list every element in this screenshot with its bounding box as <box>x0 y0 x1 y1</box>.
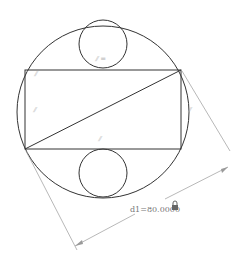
dimension-line-right-segment[interactable] <box>165 167 228 199</box>
dimension-arrow-left <box>75 240 83 246</box>
equal-constraint-icon[interactable]: ⫽ = <box>94 55 106 63</box>
parallel-constraint-icon[interactable]: ⫽ <box>97 135 103 143</box>
outer-circle[interactable] <box>17 26 189 198</box>
dimension-line-left-segment[interactable] <box>75 214 135 246</box>
parallel-constraint-icon[interactable]: ⫽ <box>187 106 193 114</box>
diagonal-line[interactable] <box>25 70 181 149</box>
dimension-extension-line-left <box>26 151 77 250</box>
bottom-circle[interactable] <box>79 149 127 197</box>
lock-icon <box>172 201 178 210</box>
parallel-constraint-icon[interactable]: ⫽ <box>33 70 39 78</box>
sketch-canvas[interactable]: ⫽ = ⫽ ⫽ ⫽ ⫽ d1=80.0000 <box>0 0 244 270</box>
parallel-constraint-icon[interactable]: ⫽ <box>32 106 38 114</box>
dimension-arrow-right <box>221 167 228 173</box>
